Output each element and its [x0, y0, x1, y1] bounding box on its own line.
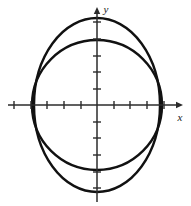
y-axis-label: y — [103, 3, 109, 15]
coordinate-plot: x y — [0, 0, 191, 206]
x-axis-label: x — [177, 111, 183, 123]
figure-container: x y — [0, 0, 191, 206]
